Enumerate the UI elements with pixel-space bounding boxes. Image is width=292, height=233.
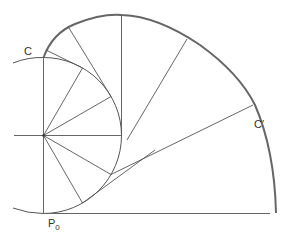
label-p-subscript: 0 bbox=[55, 223, 59, 232]
spoke-line bbox=[44, 68, 83, 136]
diagram-canvas bbox=[0, 0, 292, 233]
tangent-line bbox=[69, 28, 111, 97]
label-c-prime: C′ bbox=[254, 119, 264, 130]
tangent-line bbox=[83, 150, 156, 203]
tangent-line bbox=[46, 50, 83, 68]
spoke-line bbox=[44, 136, 112, 175]
label-c: C bbox=[24, 46, 32, 57]
tangent-line bbox=[127, 39, 187, 140]
spoke-line bbox=[44, 136, 83, 204]
label-p0: P0 bbox=[48, 218, 60, 232]
tangent-line bbox=[111, 105, 253, 175]
spoke-line bbox=[44, 97, 112, 136]
curve-c-prime bbox=[44, 15, 277, 213]
center-point bbox=[42, 134, 45, 137]
involute-diagram: C C′ P0 bbox=[0, 0, 292, 233]
